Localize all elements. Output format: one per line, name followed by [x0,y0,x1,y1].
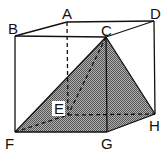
edge-ba [15,22,67,36]
geometry-diagram: A B C D E F G H [0,0,168,156]
label-b: B [8,20,18,37]
label-g: G [101,135,113,152]
pyramid-face-cgh [106,37,155,132]
label-a: A [62,5,72,22]
label-h: H [149,117,160,134]
label-f: F [5,135,14,152]
label-d: D [150,5,161,22]
edge-bc [15,36,106,37]
label-e: E [54,100,64,117]
edge-dc [106,21,154,37]
label-c: C [101,22,112,39]
edge-dh [154,21,155,114]
